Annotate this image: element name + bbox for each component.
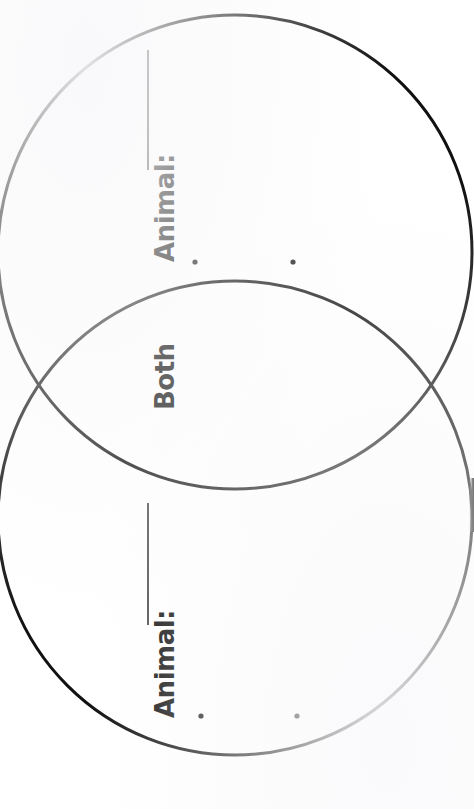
bullet-dot-top-left xyxy=(192,259,197,264)
label-both: Both xyxy=(152,343,178,410)
label-animal-top: Animal: xyxy=(152,154,178,262)
scan-edge-artifact xyxy=(469,478,474,532)
bullet-dot-bottom-right xyxy=(294,713,299,718)
label-animal-bottom: Animal: xyxy=(152,610,178,718)
worksheet-page: Animal: Both Animal: xyxy=(0,0,474,809)
bullet-dot-top-right xyxy=(290,259,295,264)
venn-diagram xyxy=(0,0,474,809)
bullet-dot-bottom-left xyxy=(198,713,203,718)
